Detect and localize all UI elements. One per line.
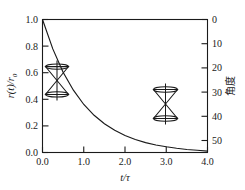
x-tick-label: 3.0: [160, 156, 173, 167]
right-tick-label: 10: [212, 38, 222, 49]
x-tick-label: 2.0: [119, 156, 132, 167]
right-tick-label: 50: [212, 135, 222, 146]
right-tick-label: 0: [212, 14, 217, 25]
y-axis-label-right-text: 角度: [224, 76, 236, 96]
left-tick-label: 0.2: [26, 120, 39, 131]
x-tick-label: 1.0: [78, 156, 91, 167]
figure-container: 1.0 0.8 0.6 0.4 0.2 0.0 0 10 20 30 40 50…: [0, 0, 245, 190]
left-tick-label: 1.0: [26, 14, 39, 25]
y-axis-label-left-main: r(t)/r: [5, 76, 17, 98]
y-axis-label-left-sub: 0: [11, 73, 19, 77]
right-tick-label: 40: [212, 111, 222, 122]
right-tick-label: 30: [212, 87, 222, 98]
left-tick-label: 0.8: [26, 41, 39, 52]
y-axis-label-right: 角度: [224, 76, 236, 96]
left-tick-label: 0.4: [26, 94, 39, 105]
x-tick-label: 4.0: [201, 156, 214, 167]
x-axis-label: t/τ: [120, 172, 131, 183]
left-tick-label: 0.6: [26, 67, 39, 78]
right-tick-label: 20: [212, 62, 222, 73]
x-tick-label: 0.0: [36, 156, 49, 167]
plot-svg: 1.0 0.8 0.6 0.4 0.2 0.0 0 10 20 30 40 50…: [0, 0, 245, 190]
